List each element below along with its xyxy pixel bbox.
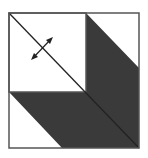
quilt-block-diagram — [0, 0, 148, 158]
